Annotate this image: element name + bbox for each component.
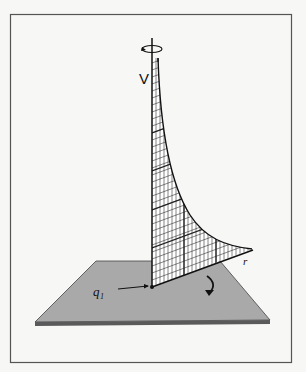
r-axis-label: r (243, 255, 247, 267)
charge-label: q₁ (93, 284, 104, 300)
figure-canvas: V q₁ r (0, 0, 306, 372)
charge-point (150, 285, 154, 289)
potential-surface-mesh (152, 26, 252, 290)
v-axis-label: V (139, 70, 149, 87)
